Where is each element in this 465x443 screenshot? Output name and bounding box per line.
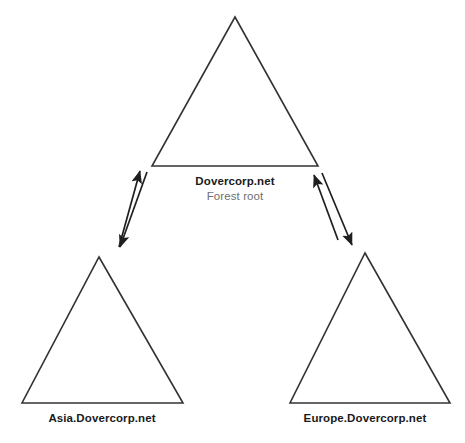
root-domain-role: Forest root	[135, 189, 335, 204]
diagram-canvas	[0, 0, 465, 443]
europe-domain-name: Europe.Dovercorp.net	[275, 411, 455, 426]
triangle-europe-domain	[290, 253, 450, 403]
asia-domain-name: Asia.Dovercorp.net	[12, 411, 192, 426]
label-asia-domain: Asia.Dovercorp.net	[12, 411, 192, 426]
label-root-domain: Dovercorp.net Forest root	[135, 174, 335, 203]
label-europe-domain: Europe.Dovercorp.net	[275, 411, 455, 426]
root-domain-name: Dovercorp.net	[135, 174, 335, 189]
triangle-root-domain	[152, 17, 318, 166]
forest-trust-diagram: Dovercorp.net Forest root Asia.Dovercorp…	[0, 0, 465, 443]
triangle-asia-domain	[22, 257, 183, 403]
